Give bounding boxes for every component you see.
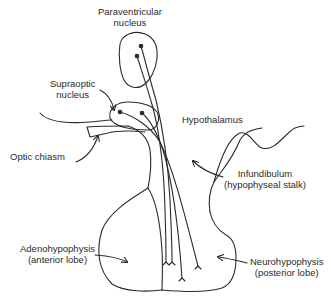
hypothalamus-left-contour: [40, 113, 112, 123]
label-supraoptic-nucleus: Supraoptic nucleus: [50, 78, 95, 100]
neurohypophysis-shape: [162, 212, 236, 291]
infundibulum-leader: [193, 161, 223, 177]
label-paraventricular-nucleus: Paraventricular nucleus: [98, 6, 162, 28]
adenohypophysis-shape: [99, 188, 162, 291]
stalk-left-contour: [128, 126, 151, 188]
optic-chiasm-shape: [87, 126, 145, 137]
label-optic-chiasm: Optic chiasm: [10, 151, 65, 162]
supraoptic-leader: [100, 90, 114, 110]
lobe-divider: [148, 188, 162, 290]
optic-chiasm-leader: [76, 136, 98, 162]
pituitary-diagram: Paraventricular nucleus Supraoptic nucle…: [0, 0, 331, 305]
neurohypophysis-leader: [218, 257, 247, 263]
label-infundibulum: Infundibulum (hypophyseal stalk): [224, 168, 306, 190]
paraventricular-axon-1: [141, 46, 172, 262]
label-neurohypophysis: Neurohypophysis (posterior lobe): [250, 256, 323, 278]
label-hypothalamus: Hypothalamus: [182, 114, 243, 125]
label-adenohypophysis: Adenohypophysis (anterior lobe): [20, 243, 95, 265]
